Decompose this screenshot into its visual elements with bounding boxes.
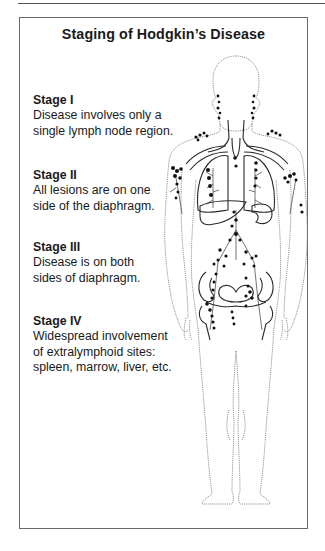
top-divider: [18, 3, 325, 4]
stage-3-desc-line-2: sides of diaphragm.: [33, 271, 173, 287]
lymph-vessels: [170, 168, 296, 330]
organ-outlines: [186, 120, 288, 340]
stage-2-block: Stage II All lesions are on one side of …: [33, 167, 173, 214]
stage-1-desc-line-2: single lymph node region.: [33, 124, 173, 140]
stage-3-block: Stage III Disease is on both sides of di…: [33, 239, 173, 286]
stage-2-desc-line-1: All lesions are on one: [33, 183, 173, 199]
stage-2-desc-line-2: side of the diaphragm.: [33, 199, 173, 215]
body-illustration: [160, 40, 310, 510]
body-outline: [165, 56, 308, 504]
stage-2-heading: Stage II: [33, 167, 173, 183]
stage-4-desc-line-2: of extralymphoid sites:: [33, 345, 173, 361]
stage-4-desc-line-3: spleen, marrow, liver, etc.: [33, 360, 173, 376]
stage-1-heading: Stage I: [33, 92, 173, 108]
stage-4-desc-line-1: Widespread involvement: [33, 329, 173, 345]
stage-3-heading: Stage III: [33, 239, 173, 255]
lymph-nodes: [171, 95, 304, 330]
stage-3-desc-line-1: Disease is on both: [33, 255, 173, 271]
stage-4-block: Stage IV Widespread involvement of extra…: [33, 313, 173, 376]
stage-1-block: Stage I Disease involves only a single l…: [33, 92, 173, 139]
stage-4-heading: Stage IV: [33, 313, 173, 329]
stage-1-desc-line-1: Disease involves only a: [33, 108, 173, 124]
